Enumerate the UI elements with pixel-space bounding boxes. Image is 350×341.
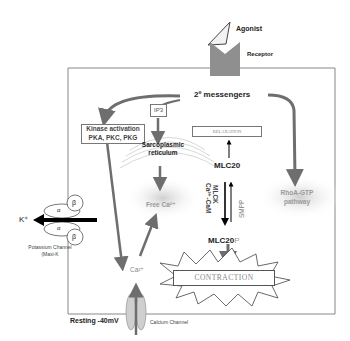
- resting-potential-label: Resting -40mV: [70, 317, 119, 324]
- alpha-top: α: [57, 207, 60, 213]
- calcium-channel-icon: [126, 290, 146, 335]
- receptor-label: Receptor: [247, 51, 273, 57]
- receptor-icon: [210, 42, 240, 76]
- k-arrow-head-icon: [33, 214, 44, 226]
- sr-line1: Sarcoplasmic: [140, 141, 186, 149]
- mlc20p-label: MLC20P: [208, 236, 240, 245]
- rhoa-line2: pathway: [276, 197, 318, 206]
- kchannel-line1: Potassium Channel: [22, 244, 78, 251]
- free-ca-label: Free Ca²⁺: [146, 201, 176, 209]
- arrow-to-kinase: [105, 96, 180, 118]
- free-ca-cloud: [125, 176, 201, 220]
- agonist-icon: [208, 22, 230, 45]
- rhoa-line1: RhoA-GTP: [276, 188, 318, 197]
- mlc20p-text: MLC20: [208, 236, 234, 245]
- rhoa-label: RhoA-GTP pathway: [276, 188, 318, 206]
- contraction-label: CONTRACTION: [194, 273, 253, 282]
- relaxation-box: RELAXATION: [192, 126, 262, 137]
- kchannel-line2: (Maxi-K: [22, 251, 78, 258]
- kinase-activation-box: Kinase activation PKA, PKC, PKG: [81, 124, 145, 144]
- sr-line2: reticulum: [140, 149, 186, 157]
- mlck-label: MLCK: [212, 185, 219, 204]
- ca-cam-label: Ca²⁺-CaM: [204, 183, 212, 213]
- phospho-suffix: P: [234, 236, 239, 245]
- beta-bottom: β: [72, 233, 76, 240]
- alpha-bottom: α: [57, 225, 60, 231]
- ca-label: Ca²⁺: [130, 266, 144, 274]
- calcium-channel-label: Calcium Channel: [150, 319, 188, 325]
- kinase-line1: Kinase activation: [82, 125, 144, 134]
- arrow-kinase-to-ca: [107, 142, 122, 264]
- ip3-label: IP3: [154, 107, 163, 113]
- arrow-ca-to-free-ca: [140, 220, 154, 256]
- smpp-label: SMPP: [238, 200, 245, 218]
- kinase-line2: PKA, PKC, PKG: [82, 134, 144, 143]
- arrow-to-rhoa: [268, 95, 295, 178]
- ip3-box: IP3: [150, 104, 167, 117]
- potassium-channel-label: Potassium Channel (Maxi-K: [22, 244, 78, 258]
- mlc20-label: MLC20: [214, 161, 240, 170]
- beta-top: β: [72, 199, 76, 206]
- relaxation-label: RELAXATION: [213, 129, 242, 134]
- sarcoplasmic-reticulum-label: Sarcoplasmic reticulum: [140, 141, 186, 157]
- agonist-label: Agonist: [236, 25, 262, 32]
- second-messengers-label: 2º messengers: [194, 90, 250, 99]
- k-label: K⁺: [19, 215, 28, 224]
- diagram-canvas: [0, 0, 350, 341]
- contraction-box: CONTRACTION: [173, 270, 275, 286]
